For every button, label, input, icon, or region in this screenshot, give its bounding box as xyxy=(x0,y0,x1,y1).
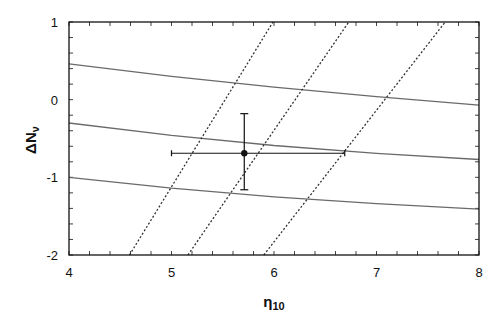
series-dashed-right xyxy=(264,22,445,255)
series-solid-upper xyxy=(69,64,479,105)
series-layer xyxy=(69,22,479,255)
x-axis-title: η10 xyxy=(263,293,284,312)
x-tick-labels: 45678 xyxy=(65,265,482,280)
series-dashed-left xyxy=(130,22,274,255)
plot-frame xyxy=(69,22,479,255)
x-tick-label: 4 xyxy=(65,265,72,280)
x-tick-label: 8 xyxy=(475,265,482,280)
y-tick-labels: 10-1-2 xyxy=(46,15,58,263)
series-solid-lower xyxy=(69,177,479,209)
x-tick-label: 5 xyxy=(168,265,175,280)
y-tick-label: -1 xyxy=(46,170,58,185)
y-axis-title: ΔNν xyxy=(22,126,41,154)
series-solid-middle xyxy=(69,123,479,160)
x-tick-label: 7 xyxy=(373,265,380,280)
chart: 45678 10-1-2 η10 ΔNν xyxy=(0,0,504,329)
data-point-with-error-bars xyxy=(172,114,345,190)
series-dashed-middle xyxy=(188,22,349,255)
x-tick-label: 6 xyxy=(270,265,277,280)
y-tick-label: 1 xyxy=(51,15,58,30)
y-tick-label: -2 xyxy=(46,248,58,263)
minor-ticks xyxy=(69,22,479,255)
y-tick-label: 0 xyxy=(51,93,58,108)
data-point-marker xyxy=(241,150,247,156)
